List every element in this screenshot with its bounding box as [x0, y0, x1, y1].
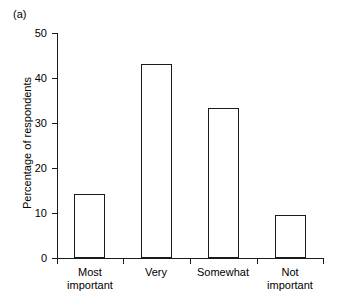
y-axis-title: Percentage of respondents [21, 58, 33, 228]
bar-most-important [74, 194, 105, 258]
y-axis-line [57, 33, 58, 259]
x-tick-mark-3 [257, 259, 258, 264]
bar-somewhat [208, 108, 239, 258]
y-tick-label-30: 30 [35, 118, 47, 129]
y-tick-label-10: 10 [35, 208, 47, 219]
x-tick-mark-2 [190, 259, 191, 264]
y-tick-label-50: 50 [35, 28, 47, 39]
x-tick-mark-0 [57, 259, 58, 264]
x-tick-mark-4 [323, 259, 324, 264]
bar-very [141, 64, 172, 258]
x-tick-mark-1 [123, 259, 124, 264]
y-tick-mark-30 [52, 123, 57, 124]
x-tick-label-line1: Most [78, 266, 102, 278]
x-tick-label-line1: Somewhat [197, 266, 249, 278]
figure-panel-a: (a) Percentage of respondents 0 10 20 30… [0, 0, 339, 306]
x-tick-label-line1: Not [281, 266, 298, 278]
y-tick-label-0: 0 [41, 253, 47, 264]
x-tick-label-line1: Very [145, 266, 167, 278]
y-tick-mark-10 [52, 213, 57, 214]
y-tick-mark-20 [52, 168, 57, 169]
panel-label: (a) [13, 8, 26, 20]
y-tick-label-20: 20 [35, 163, 47, 174]
x-tick-label-line2: important [245, 279, 335, 292]
x-tick-label-line2: important [45, 279, 135, 292]
x-tick-label-not-important: Not important [245, 266, 335, 292]
y-tick-mark-50 [52, 33, 57, 34]
bar-not-important [275, 215, 306, 258]
y-tick-mark-40 [52, 78, 57, 79]
y-tick-label-40: 40 [35, 73, 47, 84]
